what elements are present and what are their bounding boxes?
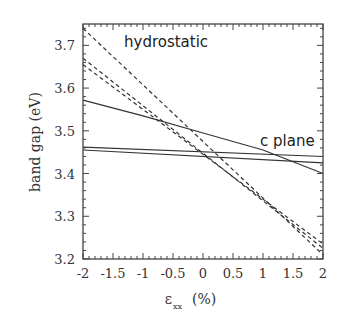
x-axis-title-unit: (%) [192,291,216,307]
x-tick-label: -2 [77,266,90,281]
x-tick-label: 2 [319,266,327,281]
y-tick-label: 3.3 [54,209,75,224]
x-tick-label: -1 [137,266,150,281]
y-tick-label: 3.4 [54,167,75,182]
x-tick-label: -0.5 [160,266,185,281]
annotation-c-plane: c plane [260,132,315,150]
x-tick-label: 0 [199,266,207,281]
x-tick-label: 1.5 [283,266,304,281]
series-hydrostatic-3 [83,65,323,244]
x-axis-title-main: ε [165,291,172,307]
y-tick-label: 3.7 [54,38,75,53]
y-tick-label: 3.5 [54,124,75,139]
annotation-hydrostatic: hydrostatic [124,33,208,51]
x-tick-label: 1 [259,266,267,281]
y-tick-label: 3.2 [54,252,75,267]
x-tick-label: -1.5 [100,266,125,281]
series-hydrostatic-2 [83,58,323,248]
band-gap-chart: -2-1.5-1-0.500.511.523.23.33.43.53.63.7 … [0,0,343,334]
x-tick-label: 0.5 [223,266,244,281]
y-tick-label: 3.6 [54,81,75,96]
x-axis-title-sub: xx [173,302,183,311]
x-axis-title: ε xx (%) [165,291,217,311]
y-axis-title: band gap (eV) [27,92,43,192]
